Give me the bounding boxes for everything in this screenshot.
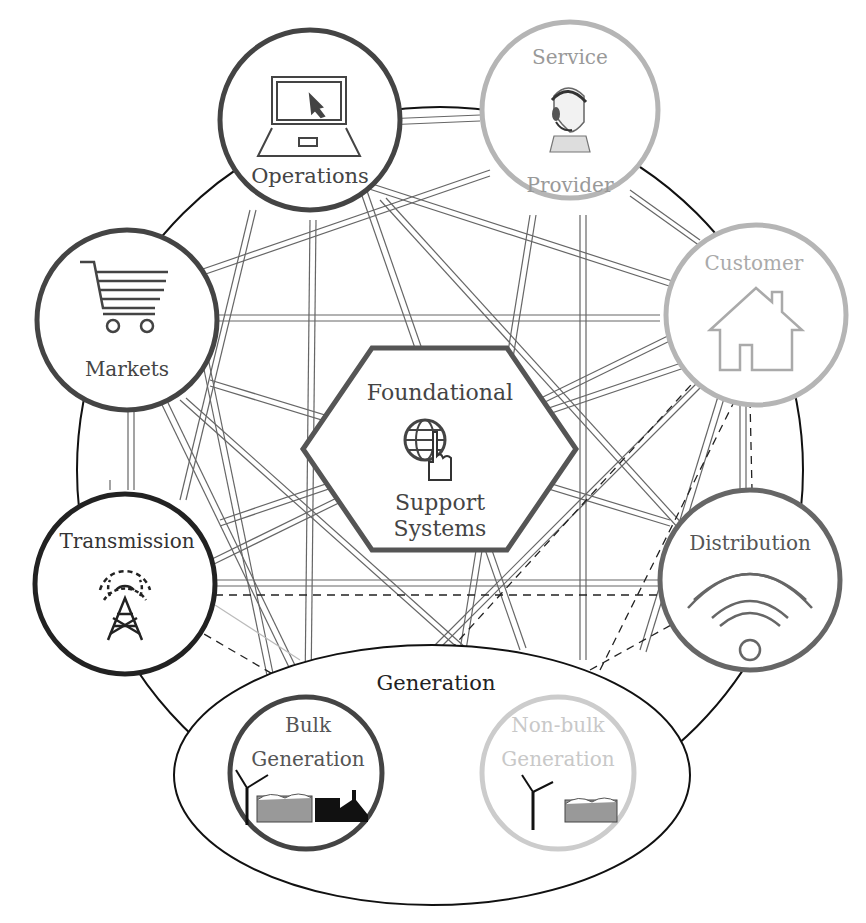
generation-label: Generation [376,671,495,695]
smart-grid-diagram: Foundational Support Systems Operations … [0,0,866,923]
center-title-line1: Foundational [367,380,513,405]
service-provider-node[interactable]: Service Provider [482,22,658,198]
center-title-line3: Systems [394,516,487,541]
operations-node[interactable]: Operations [220,30,400,210]
headset-agent-icon [550,88,590,152]
non-bulk-generation-line2: Generation [501,747,614,771]
distribution-node[interactable]: Distribution [660,490,840,670]
markets-label: Markets [85,357,169,381]
customer-label: Customer [705,251,804,275]
distribution-label: Distribution [689,531,811,555]
generation-group[interactable]: Generation Bulk Generation Non-bulk Gene… [174,645,690,905]
transmission-label: Transmission [59,529,194,553]
center-title-line2: Support [395,490,485,515]
service-provider-label-bottom: Provider [527,173,614,197]
service-provider-label-top: Service [532,45,608,69]
bulk-generation-line1: Bulk [285,713,332,737]
operations-label: Operations [251,164,369,188]
non-bulk-generation-node[interactable]: Non-bulk Generation [482,697,634,849]
transmission-node[interactable]: Transmission [35,494,215,674]
markets-node[interactable]: Markets [37,230,217,410]
non-bulk-generation-line1: Non-bulk [511,713,605,737]
foundational-support-systems-node[interactable]: Foundational Support Systems [303,348,576,550]
customer-node[interactable]: Customer [666,225,846,405]
bulk-generation-node[interactable]: Bulk Generation [230,697,382,849]
bulk-generation-line2: Generation [251,747,364,771]
